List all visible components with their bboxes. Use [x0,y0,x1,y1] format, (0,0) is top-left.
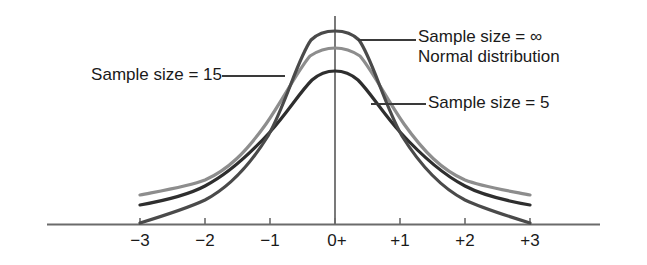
tick-label-0: 0+ [327,231,346,251]
tick-label--1: −1 [260,231,279,251]
annotation-sample-size-5: Sample size = 5 [428,93,549,113]
annotation-normal-line1: Sample size = ∞ [418,27,560,47]
annotation-normal-line2: Normal distribution [418,47,560,67]
annotation-sample-size-15: Sample size = 15 [91,65,222,85]
tick-label--2: −2 [195,231,214,251]
annotation-normal-distribution: Sample size = ∞ Normal distribution [418,27,560,67]
tick-label-+1: +1 [390,231,409,251]
tick-label-+2: +2 [455,231,474,251]
tick-label-+3: +3 [520,231,539,251]
tick-label--3: −3 [130,231,149,251]
distribution-chart: Sample size = ∞ Normal distribution Samp… [0,0,647,265]
